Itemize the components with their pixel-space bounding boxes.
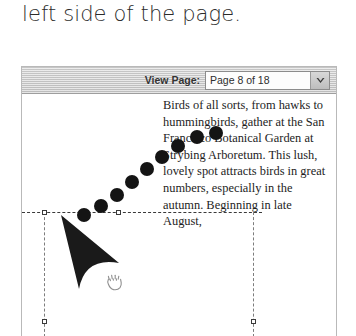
document-viewer-panel: View Page: Page 8 of 18 Birds of all sor… xyxy=(21,66,337,336)
selection-handle[interactable] xyxy=(251,319,256,324)
right-vertical-guide-line xyxy=(253,212,254,336)
view-page-label: View Page: xyxy=(145,74,200,86)
page-select-value: Page 8 of 18 xyxy=(206,74,310,86)
viewer-toolbar: View Page: Page 8 of 18 xyxy=(22,67,336,94)
selection-handle[interactable] xyxy=(116,210,121,215)
left-vertical-guide-line xyxy=(44,212,45,336)
document-body-text: Birds of all sorts, from hawks to hummin… xyxy=(163,97,329,230)
figure-caption: left side of the page. xyxy=(22,2,342,26)
selection-handle[interactable] xyxy=(42,210,47,215)
page-select-dropdown[interactable]: Page 8 of 18 xyxy=(205,71,330,90)
chevron-down-icon[interactable] xyxy=(310,72,329,89)
path-dot xyxy=(140,162,154,176)
path-dot xyxy=(125,175,139,189)
path-dot xyxy=(94,199,108,213)
selection-handle[interactable] xyxy=(42,319,47,324)
path-dot xyxy=(77,208,91,222)
curved-triangle-shape xyxy=(59,213,123,291)
path-dot xyxy=(110,188,124,202)
grab-hand-cursor-icon xyxy=(105,270,125,292)
